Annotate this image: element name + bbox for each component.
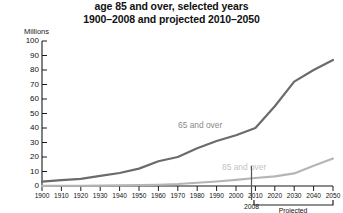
y-axis-label-80: 80	[30, 65, 39, 74]
x-axis-label-2030: 2030	[287, 192, 302, 199]
x-axis-labels: 1900 1910 1920 1930 1940 1950 1960 1970 …	[35, 192, 341, 199]
y-axis-label-40: 40	[30, 123, 39, 132]
series-line-85-and-over	[42, 159, 333, 186]
x-axis-label-1990: 1990	[209, 192, 224, 199]
x-axis-label-1950: 1950	[132, 192, 147, 199]
chart-plot-area: 100 90 80 70 60 50 40 30 20 10 0	[0, 0, 343, 213]
x-axis-ticks	[42, 186, 333, 191]
y-axis-ticks	[42, 41, 47, 172]
y-axis-label-50: 50	[30, 109, 39, 118]
divider-label-2008: 2008	[244, 203, 259, 210]
x-axis-label-1900: 1900	[35, 192, 50, 199]
y-axis-labels: 100 90 80 70 60 50 40 30 20 10 0	[26, 36, 40, 190]
chart-container: age 85 and over, selected years 1900–200…	[0, 0, 343, 213]
y-axis-label-60: 60	[30, 94, 39, 103]
y-axis-label-100: 100	[26, 36, 40, 45]
x-axis-label-2020: 2020	[267, 192, 282, 199]
y-axis-label-10: 10	[30, 167, 39, 176]
series-label-65-and-over: 65 and over	[178, 120, 222, 130]
x-axis-label-2040: 2040	[306, 192, 321, 199]
x-axis-label-1920: 1920	[73, 192, 88, 199]
x-axis-label-1960: 1960	[151, 192, 166, 199]
x-axis-label-2050: 2050	[326, 192, 341, 199]
x-axis-label-1980: 1980	[190, 192, 205, 199]
x-axis-label-1910: 1910	[54, 192, 69, 199]
x-axis-label-1930: 1930	[93, 192, 108, 199]
x-axis-label-2010: 2010	[248, 192, 263, 199]
series-label-85-and-over: 85 and over	[222, 162, 266, 172]
projected-bracket	[254, 200, 333, 205]
y-axis-label-0: 0	[35, 181, 40, 190]
y-axis-label-70: 70	[30, 80, 39, 89]
projected-bracket-label: Projected	[279, 207, 308, 213]
y-axis-label-30: 30	[30, 138, 39, 147]
x-axis-label-1940: 1940	[112, 192, 127, 199]
y-axis-label-20: 20	[30, 152, 39, 161]
y-axis-label-90: 90	[30, 51, 39, 60]
x-axis-label-1970: 1970	[170, 192, 185, 199]
x-axis-label-2000: 2000	[229, 192, 244, 199]
